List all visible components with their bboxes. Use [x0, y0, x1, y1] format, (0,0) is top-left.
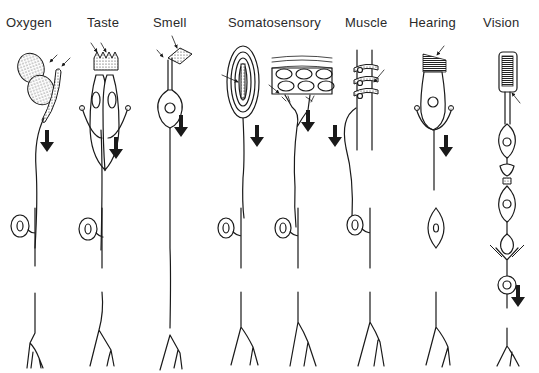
signal-arrow-icon	[439, 135, 453, 157]
muscle-receptor	[328, 50, 384, 366]
vision-receptor	[490, 52, 525, 366]
receptor-diagram	[0, 0, 539, 373]
oxygen-receptor	[11, 49, 70, 368]
signal-arrow-icon	[328, 125, 342, 147]
smell-receptor	[157, 36, 192, 370]
signal-arrow-icon	[250, 125, 264, 147]
somatosensory-receptor-2	[269, 56, 334, 366]
signal-arrow-icon	[301, 110, 315, 132]
hearing-receptor	[415, 46, 454, 367]
signal-arrow-icon	[40, 130, 54, 152]
taste-receptor	[79, 43, 131, 366]
somatosensory-receptor-1	[218, 46, 264, 365]
